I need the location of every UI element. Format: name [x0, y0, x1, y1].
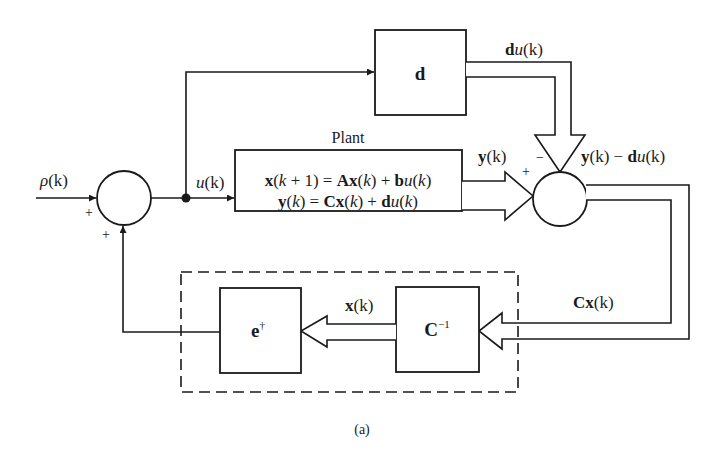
- difference-signal-label: y(k) − du(k): [581, 147, 665, 166]
- state-double-arrow: [301, 316, 396, 347]
- state-signal-label: x(k): [345, 296, 373, 315]
- input-junction-sign-plus-left: +: [85, 205, 93, 220]
- output-summing-junction: [533, 172, 587, 226]
- input-summing-junction: [97, 171, 151, 225]
- input-junction-sign-plus-bottom: +: [102, 227, 110, 242]
- plant-output-double-arrow: [462, 172, 533, 220]
- reference-signal-label: ρ(k): [39, 171, 68, 190]
- block-diagram: ρ(k) + + u(k) d du(k) Plant x(k + 1) = A…: [0, 0, 724, 460]
- d-block-label: d: [415, 63, 426, 84]
- output-junction-sign-minus: −: [536, 150, 544, 165]
- figure-caption: (a): [354, 422, 370, 438]
- plant-state-equation: x(k + 1) = Ax(k) + bu(k): [265, 171, 432, 190]
- plant-output-label: y(k): [478, 147, 506, 166]
- plant-title: Plant: [332, 129, 365, 146]
- plant-arrow-mask: [462, 182, 466, 209]
- control-signal-label: u(k): [196, 173, 224, 192]
- feedthrough-signal-label: du(k): [505, 40, 543, 59]
- output-junction-sign-plus: +: [522, 164, 530, 179]
- feedback-line: [123, 226, 220, 332]
- plant-output-equation: y(k) = Cx(k) + du(k): [278, 192, 418, 211]
- measured-state-label: Cx(k): [573, 293, 614, 312]
